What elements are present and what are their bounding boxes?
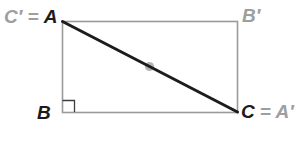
vertex-label-bottom-left: B — [37, 103, 51, 122]
right-angle-marker-icon — [63, 101, 75, 113]
label-equals-a-prime: = A′ — [260, 102, 294, 121]
diagonal-line — [63, 22, 238, 113]
vertex-label-top-right: B′ — [242, 6, 260, 25]
vertex-label-bottom-right: C = A′ — [241, 102, 294, 121]
label-c-prime-equals: C′ = — [4, 7, 39, 26]
geometry-figure: C′ = A B′ B C = A′ — [0, 0, 297, 149]
label-b-prime: B′ — [242, 6, 260, 25]
label-c: C — [241, 102, 255, 121]
label-a: A — [44, 7, 58, 26]
label-b: B — [37, 103, 51, 122]
vertex-label-top-left: C′ = A — [4, 7, 57, 26]
